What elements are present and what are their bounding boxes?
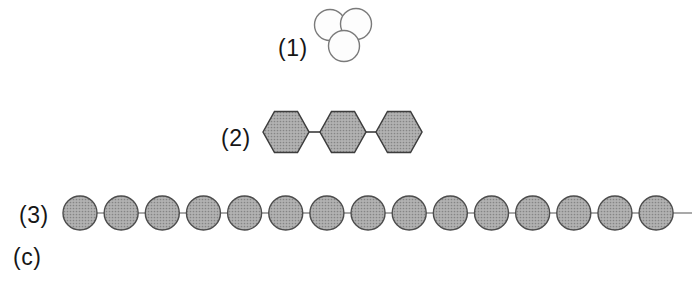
panel-caption-label: (c) — [13, 246, 41, 269]
diagram-svg — [0, 0, 700, 289]
hexagon — [376, 112, 422, 153]
structure-1-label: (1) — [278, 37, 308, 60]
figure-canvas: (1) (2) (3) (c) — [0, 0, 700, 289]
bead — [310, 196, 344, 230]
structure-3-label: (3) — [19, 204, 49, 227]
bead — [351, 196, 385, 230]
bead — [63, 196, 97, 230]
bead — [639, 196, 673, 230]
bead — [516, 196, 550, 230]
hexagon — [320, 112, 366, 153]
sphere — [329, 31, 360, 62]
bead — [433, 196, 467, 230]
bead — [392, 196, 426, 230]
structure-2-label: (2) — [221, 127, 251, 150]
bead — [145, 196, 179, 230]
bead — [104, 196, 138, 230]
bead — [557, 196, 591, 230]
bead — [475, 196, 509, 230]
bead — [269, 196, 303, 230]
bead — [228, 196, 262, 230]
bead — [598, 196, 632, 230]
hexagon — [263, 112, 309, 153]
bead — [186, 196, 220, 230]
